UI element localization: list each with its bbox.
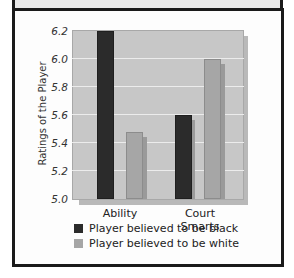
bar-ability-black [97, 31, 114, 199]
legend-swatch-black [74, 224, 83, 233]
category-label-ability: Ability [95, 207, 145, 220]
legend-label: Player believed to be white [89, 237, 239, 250]
bar-ability-white [126, 132, 143, 199]
legend-item-white: Player believed to be white [74, 237, 239, 250]
legend-item-black: Player believed to be black [74, 222, 238, 235]
y-tick: 5.0 [36, 193, 68, 205]
bar-courtsmarts-white [204, 59, 221, 199]
top-band [12, 0, 283, 8]
y-axis-label: Ratings of the Player [37, 44, 48, 184]
legend-swatch-white [74, 239, 83, 248]
y-tick: 6.2 [36, 25, 68, 37]
legend-label: Player believed to be black [89, 222, 238, 235]
bar-courtsmarts-black [175, 115, 192, 199]
